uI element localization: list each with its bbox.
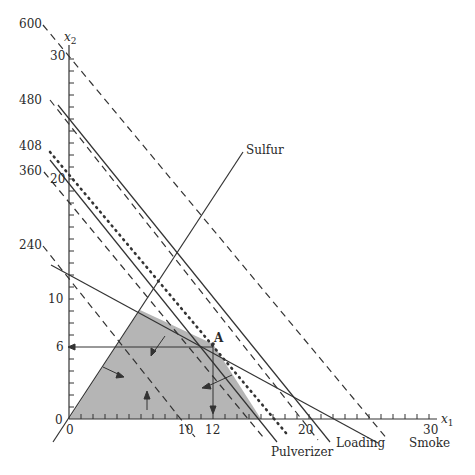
y-axis-ticks [69, 59, 74, 407]
level-label-600: 600 [19, 17, 42, 31]
level-label-360: 360 [19, 164, 42, 178]
sulfur-label: Sulfur [246, 143, 284, 157]
loading-label: Loading [336, 436, 386, 450]
y-tick-20: 20 [50, 172, 65, 186]
y-tick-10: 10 [48, 292, 63, 306]
point-a-label: A [213, 331, 224, 345]
pulverizer-label: Pulverizer [271, 445, 334, 459]
lp-diagram: A x1 x2 0 10 12 20 30 0 6 10 20 30 600 4… [0, 0, 475, 475]
y-tick-6: 6 [56, 340, 64, 354]
x-tick-20: 20 [298, 423, 313, 437]
x-axis-label: x1 [441, 412, 454, 428]
y-tick-30: 30 [50, 49, 65, 63]
x-tick-0: 0 [66, 423, 74, 437]
level-label-480: 480 [19, 93, 42, 107]
x-tick-12: 12 [205, 423, 220, 437]
x-tick-30: 30 [423, 423, 438, 437]
smoke-label: Smoke [409, 436, 450, 450]
level-label-240: 240 [19, 238, 42, 252]
y-tick-0: 0 [55, 413, 63, 427]
y-axis-label: x2 [64, 30, 77, 46]
x-tick-10: 10 [178, 423, 193, 437]
feasible-region [69, 310, 261, 419]
level-label-408: 408 [19, 139, 42, 153]
